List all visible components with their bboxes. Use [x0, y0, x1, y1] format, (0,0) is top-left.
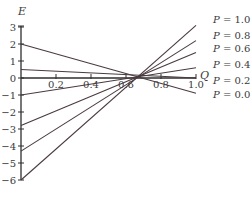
x-axis-title: Q [200, 69, 209, 82]
y-axis-title: E [17, 5, 26, 18]
y-tick-label: −5 [1, 158, 16, 169]
y-tick-label: −1 [1, 90, 16, 101]
y-tick-label: 0 [10, 73, 16, 84]
series-line [21, 25, 196, 180]
y-tick-label: −3 [1, 124, 16, 135]
y-tick-label: 2 [10, 39, 16, 50]
series-line [21, 41, 196, 152]
y-tick-label: −2 [1, 107, 16, 118]
series-lines [21, 25, 196, 180]
legend-label: P = 0.6 [212, 43, 250, 54]
legend-label: P = 0.8 [212, 30, 250, 41]
legend-label: P = 0.4 [212, 59, 250, 70]
legend: P = 1.0P = 0.8P = 0.6P = 0.4P = 0.2P = 0… [212, 14, 250, 100]
y-tick-label: −4 [1, 141, 16, 152]
series-line [21, 70, 196, 79]
y-tick-label: 1 [10, 56, 16, 67]
axes: E3210−1−2−3−4−5−60.20.40.60.81.0Q [1, 5, 209, 186]
legend-label: P = 1.0 [212, 14, 250, 25]
chart: E3210−1−2−3−4−5−60.20.40.60.81.0Q P = 1.… [0, 0, 252, 202]
y-tick-label: −6 [1, 175, 16, 186]
legend-label: P = 0.0 [212, 89, 250, 100]
legend-label: P = 0.2 [212, 75, 250, 86]
y-tick-label: 3 [10, 22, 16, 33]
